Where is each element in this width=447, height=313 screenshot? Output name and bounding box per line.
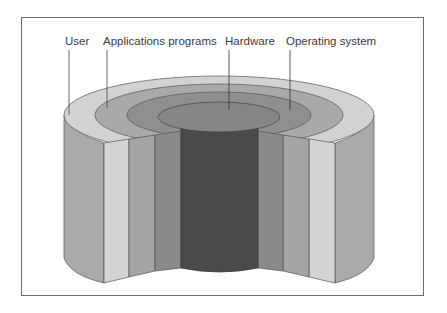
cut-band-apps-left <box>129 135 155 277</box>
outer-side-left <box>64 115 104 283</box>
cut-band-apps-right <box>283 135 309 277</box>
cut-band-user-left <box>104 139 129 283</box>
label-applications-programs: Applications programs <box>103 35 217 47</box>
cut-band-os-left <box>155 131 181 271</box>
core-hardware <box>181 128 258 272</box>
outer-side-right <box>335 115 374 283</box>
label-hardware: Hardware <box>225 35 275 47</box>
top-hardware <box>158 102 280 132</box>
label-operating-system: Operating system <box>286 35 376 47</box>
label-user: User <box>65 35 89 47</box>
cut-band-user-right <box>309 139 335 283</box>
layered-system-diagram: User Applications programs Hardware Oper… <box>0 0 447 313</box>
cut-band-os-right <box>258 131 283 271</box>
